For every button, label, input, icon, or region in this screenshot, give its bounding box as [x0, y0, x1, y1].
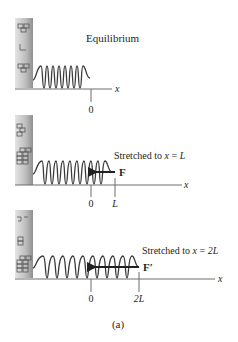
panel-title: Equilibrium: [86, 32, 140, 44]
tick-label: L: [111, 198, 118, 209]
spring-diagram: x 0 Equilibrium F x 0 L Stretched to x =…: [0, 0, 238, 342]
wall: [15, 210, 33, 278]
wall: [15, 115, 33, 185]
axis-label: x: [217, 273, 223, 284]
spring: [33, 66, 90, 88]
axis-label: x: [114, 83, 120, 94]
force-label: F: [119, 166, 126, 178]
force-label: F′: [143, 261, 153, 273]
panel-title: Stretched to x = 2L: [142, 245, 219, 256]
panel-title: Stretched to x = L: [114, 150, 186, 161]
tick-label: 2L: [134, 293, 145, 304]
axis-label: x: [183, 179, 189, 190]
figure-caption: (a): [112, 318, 125, 331]
panel-stretched-L: F x 0 L Stretched to x = L: [15, 115, 189, 209]
tick-label: 0: [89, 293, 94, 304]
panel-equilibrium: x 0 Equilibrium: [15, 18, 140, 115]
tick-label: 0: [89, 104, 94, 115]
tick-label: 0: [89, 198, 94, 209]
panel-stretched-2L: F′ x 0 2L Stretched to x = 2L: [15, 210, 223, 304]
wall: [15, 18, 33, 88]
